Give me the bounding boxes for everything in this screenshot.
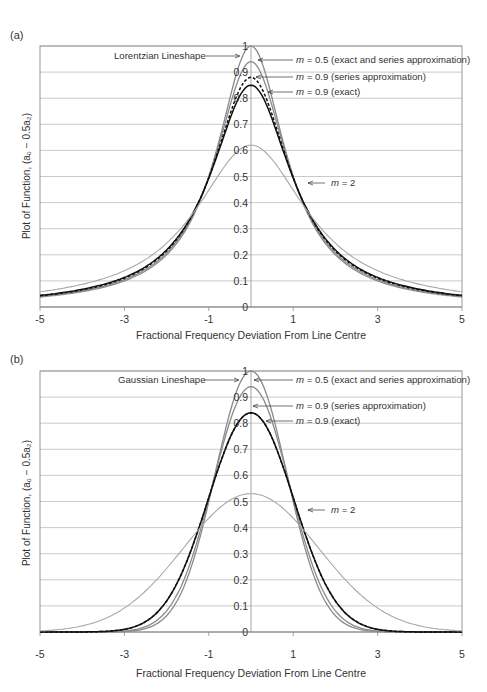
annotation-m09-exact-label: = 0.9 (exact) (304, 86, 360, 97)
svg-text:m = 0.9 (series approximation): m = 0.9 (series approximation) (296, 71, 426, 82)
y-tick-label: 0.7 (233, 118, 248, 130)
y-tick-label: 0.8 (233, 92, 248, 104)
svg-text:m = 0.9 (series approximation): m = 0.9 (series approximation) (296, 400, 426, 411)
x-tick-label: 1 (290, 648, 296, 660)
svg-text:m = 0.5 (exact and series appr: m = 0.5 (exact and series approximation) (296, 54, 470, 65)
x-tick-label: 5 (459, 313, 465, 325)
annotation-m09-series-label: = 0.9 (series approximation) (304, 400, 426, 411)
y-tick-label: 0.2 (233, 574, 248, 586)
svg-text:m = 0.5 (exact and series appr: m = 0.5 (exact and series approximation) (296, 374, 470, 385)
y-tick-label: 0.2 (233, 249, 248, 261)
y-tick-label: 0 (242, 301, 248, 313)
chart-panel-a: (a) 00.10.20.30.40.50.60.70.80.91 -5-3-1… (0, 0, 487, 349)
x-tick-label: -5 (35, 313, 44, 325)
y-tick-label: 0.6 (233, 469, 248, 481)
annotation-m05-a: m = 0.5 (exact and series approximation) (258, 54, 470, 65)
y-axis-title-b: Plot of Function, (a₀ − 0.5a₂) (21, 440, 32, 566)
annotation-lineshape-b: Gaussian Lineshape (118, 374, 239, 385)
y-tick-label: 0 (242, 626, 248, 638)
annotation-lineshape-label: Lorentzian Lineshape (114, 50, 206, 61)
annotation-m2-label: = 2 (339, 177, 355, 188)
annotation-m05-label: = 0.5 (exact and series approximation) (304, 54, 470, 65)
annotation-m2-label: = 2 (339, 504, 355, 515)
y-tick-label: 0.3 (233, 223, 248, 235)
x-tick-label: -1 (204, 313, 213, 325)
annotation-m09-exact-a: m = 0.9 (exact) (268, 86, 360, 97)
m-symbol: m (296, 86, 304, 97)
y-tick-label: 0.5 (233, 496, 248, 508)
x-tick-label: -3 (120, 648, 129, 660)
m-symbol: m (296, 374, 304, 385)
y-tick-label: 0.4 (233, 197, 248, 209)
x-tick-labels-a: -5-3-1135 (35, 313, 465, 325)
annotation-m2-b: m = 2 (308, 504, 355, 515)
chart-b-svg: (b) 00.10.20.30.40.50.60.70.80.91 -5-3-1… (0, 345, 487, 692)
x-tick-label: 5 (459, 648, 465, 660)
x-tick-label: -5 (35, 648, 44, 660)
annotation-lineshape-a: Lorentzian Lineshape (114, 50, 240, 61)
y-tick-label: 0.9 (233, 391, 248, 403)
x-tick-label: 3 (375, 648, 381, 660)
svg-text:m = 2: m = 2 (331, 177, 355, 188)
m-symbol: m (331, 504, 339, 515)
y-tick-label: 0.6 (233, 144, 248, 156)
panel-label-b: (b) (10, 353, 23, 365)
x-tick-labels-b: -5-3-1135 (35, 648, 465, 660)
y-tick-label: 0.9 (233, 66, 248, 78)
annotation-m09-exact-b: m = 0.9 (exact) (266, 415, 360, 426)
annotation-m09-series-label: = 0.9 (series approximation) (304, 71, 426, 82)
y-tick-label: 0.7 (233, 443, 248, 455)
annotation-lineshape-label: Gaussian Lineshape (118, 374, 205, 385)
chart-a-svg: (a) 00.10.20.30.40.50.60.70.80.91 -5-3-1… (0, 0, 487, 345)
annotation-m05-b: m = 0.5 (exact and series approximation) (254, 374, 470, 385)
annotation-m09-series-b: m = 0.9 (series approximation) (253, 400, 426, 411)
x-axis-title-a: Fractional Frequency Deviation From Line… (136, 329, 366, 341)
svg-text:m = 0.9 (exact): m = 0.9 (exact) (296, 86, 360, 97)
y-tick-label: 1 (242, 365, 248, 377)
x-axis-title-b: Fractional Frequency Deviation From Line… (136, 667, 366, 679)
m-symbol: m (296, 415, 304, 426)
m-symbol: m (296, 400, 304, 411)
y-tick-label: 1 (242, 40, 248, 52)
m-symbol: m (296, 71, 304, 82)
annotation-m2-a: m = 2 (308, 177, 355, 188)
annotation-m05-label: = 0.5 (exact and series approximation) (304, 374, 470, 385)
y-axis-title-a: Plot of Function, (a₀ − 0.5a₂) (21, 113, 32, 239)
y-tick-label: 0.4 (233, 522, 248, 534)
x-tick-label: -3 (120, 313, 129, 325)
y-tick-label: 0.5 (233, 171, 248, 183)
svg-text:m = 0.9 (exact): m = 0.9 (exact) (296, 415, 360, 426)
annotation-m09-series-a: m = 0.9 (series approximation) (256, 71, 426, 82)
y-tick-label: 0.3 (233, 548, 248, 560)
annotation-m09-exact-label: = 0.9 (exact) (304, 415, 360, 426)
chart-panel-b: (b) 00.10.20.30.40.50.60.70.80.91 -5-3-1… (0, 345, 487, 692)
x-tick-label: -1 (204, 648, 213, 660)
y-tick-label: 0.8 (233, 417, 248, 429)
x-tick-label: 3 (375, 313, 381, 325)
svg-text:m = 2: m = 2 (331, 504, 355, 515)
m-symbol: m (296, 54, 304, 65)
x-tick-label: 1 (290, 313, 296, 325)
panel-label-a: (a) (10, 29, 23, 41)
y-tick-label: 0.1 (233, 275, 248, 287)
y-tick-label: 0.1 (233, 600, 248, 612)
m-symbol: m (331, 177, 339, 188)
